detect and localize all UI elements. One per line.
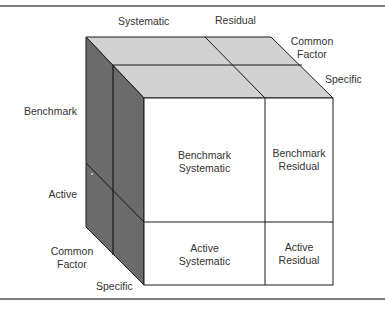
row-label-active: Active — [30, 188, 77, 201]
cell-active-residual-line1: Active — [265, 241, 333, 254]
row-label-benchmark: Benchmark — [10, 105, 77, 118]
depth-label-specific-top: Specific — [325, 73, 362, 86]
cell-benchmark-systematic-line2: Systematic — [144, 162, 265, 175]
column-label-residual: Residual — [215, 14, 256, 27]
depth-label-common-factor-top-line1: Common — [287, 35, 337, 48]
cell-benchmark-residual: Benchmark Residual — [265, 147, 333, 172]
scan-artifact-dot — [91, 173, 93, 175]
cell-benchmark-residual-line2: Residual — [265, 160, 333, 173]
cell-benchmark-residual-line1: Benchmark — [265, 147, 333, 160]
cell-active-systematic: Active Systematic — [144, 242, 265, 267]
column-label-systematic: Systematic — [118, 15, 169, 28]
cell-active-systematic-line1: Active — [144, 242, 265, 255]
cell-active-systematic-line2: Systematic — [144, 255, 265, 268]
depth-label-common-factor-top-line2: Factor — [287, 48, 337, 61]
depth-label-common-factor-left-line1: Common — [47, 245, 97, 258]
cell-active-residual: Active Residual — [265, 241, 333, 266]
depth-label-common-factor-top: Common Factor — [287, 35, 337, 60]
depth-label-specific-left: Specific — [96, 280, 133, 293]
risk-decomposition-cube-diagram: Systematic Residual Common Factor Specif… — [0, 0, 385, 310]
cell-benchmark-systematic-line1: Benchmark — [144, 149, 265, 162]
cell-active-residual-line2: Residual — [265, 254, 333, 267]
depth-label-common-factor-left: Common Factor — [47, 245, 97, 270]
cell-benchmark-systematic: Benchmark Systematic — [144, 149, 265, 174]
depth-label-common-factor-left-line2: Factor — [47, 258, 97, 271]
